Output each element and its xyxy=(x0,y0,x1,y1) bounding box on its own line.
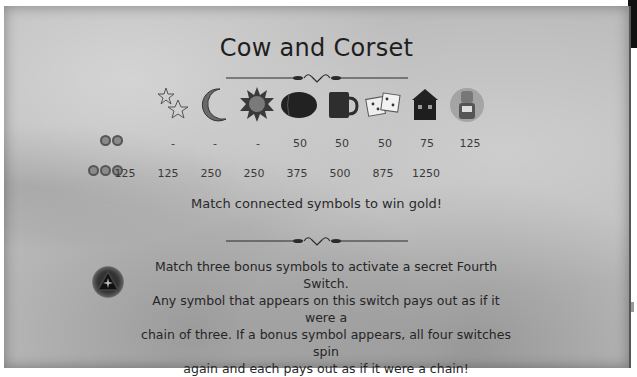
stars-icon xyxy=(152,84,194,126)
symbol-row xyxy=(152,84,488,126)
coin-icon xyxy=(112,135,123,146)
bonus-line: Any symbol that appears on this switch p… xyxy=(136,292,516,326)
ornament-divider-top xyxy=(226,72,408,84)
moon-icon xyxy=(194,84,236,126)
bonus-line: Match three bonus symbols to activate a … xyxy=(136,258,516,292)
payout-two-cow: 125 xyxy=(445,137,495,150)
bonus-line: again and each pays out as if it were a … xyxy=(136,360,516,377)
two-coin-indicator xyxy=(100,135,124,146)
game-title: Cow and Corset xyxy=(4,34,629,62)
dice-icon xyxy=(362,84,404,126)
bonus-symbol-icon xyxy=(92,266,124,298)
barrel-icon xyxy=(278,84,320,126)
tankard-icon xyxy=(320,84,362,126)
tavern-icon xyxy=(404,84,446,126)
sun-icon xyxy=(236,84,278,126)
paytable-panel: Cow and Corset xyxy=(4,6,631,368)
cow-icon xyxy=(446,84,488,126)
coin-icon xyxy=(100,135,111,146)
bonus-description: Match three bonus symbols to activate a … xyxy=(136,258,516,377)
coin-icon xyxy=(88,165,99,176)
tagline: Match connected symbols to win gold! xyxy=(4,196,629,211)
payout-three-cow: 1250 xyxy=(401,167,451,180)
bonus-line: chain of three. If a bonus symbol appear… xyxy=(136,326,516,360)
ornament-divider-bottom xyxy=(226,235,408,247)
